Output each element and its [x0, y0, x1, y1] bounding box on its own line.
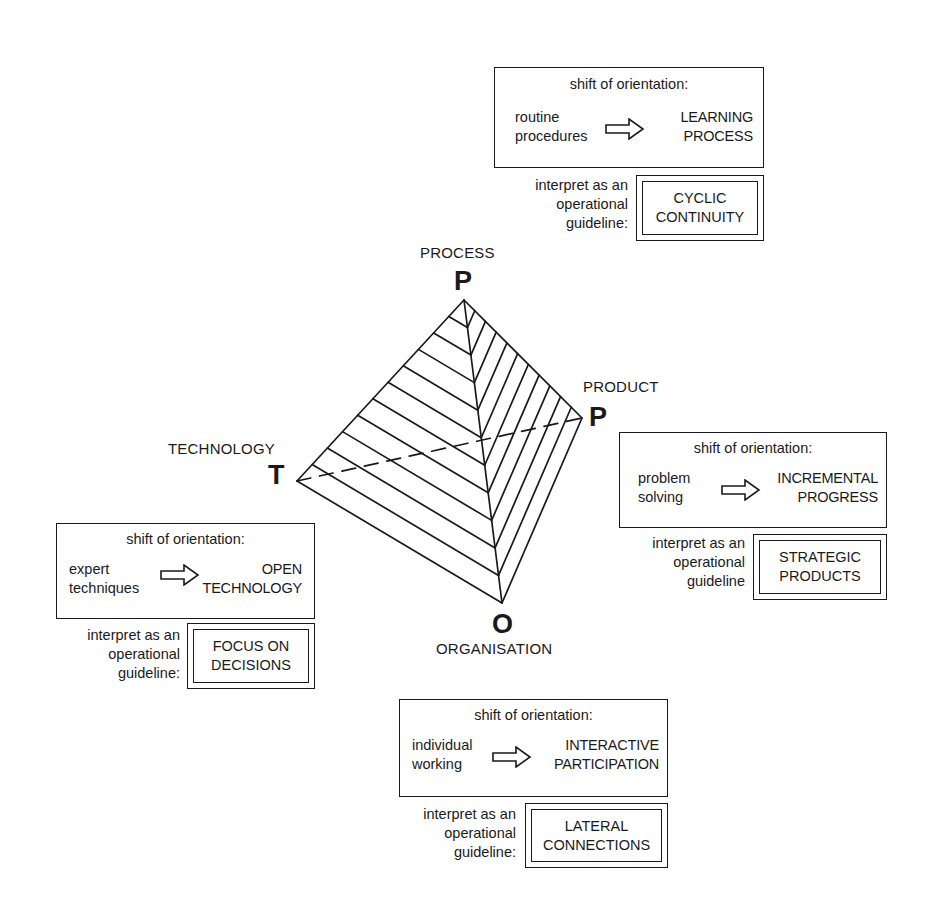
- guideline-box-inner: LATERAL CONNECTIONS: [531, 809, 662, 862]
- from-line-1: routine: [515, 108, 588, 127]
- caption-line-2: operational: [390, 824, 516, 843]
- guideline-caption-product: interpret as an operational guideline: [617, 534, 745, 591]
- shift-box-product: shift of orientation: problem solving IN…: [619, 432, 887, 528]
- guideline-box-technology: FOCUS ON DECISIONS: [187, 623, 315, 689]
- to-line-2: PARTICIPATION: [554, 755, 659, 774]
- vertex-label-process: PROCESS: [420, 244, 495, 261]
- shift-arrow-icon: [605, 118, 645, 140]
- caption-line-2: operational: [617, 553, 745, 572]
- to-line-1: OPEN: [202, 560, 302, 579]
- caption-line-3: guideline: [617, 572, 745, 591]
- shift-title: shift of orientation:: [400, 707, 667, 723]
- vertex-letter-product: P: [589, 402, 607, 433]
- guideline-caption-process: interpret as an operational guideline:: [500, 176, 628, 233]
- caption-line-1: interpret as an: [617, 534, 745, 553]
- shift-title: shift of orientation:: [57, 531, 314, 547]
- from-line-1: individual: [412, 736, 472, 755]
- shift-title: shift of orientation:: [495, 76, 763, 92]
- to-line-2: PROCESS: [680, 127, 753, 146]
- to-text: OPEN TECHNOLOGY: [202, 560, 302, 598]
- vertex-label-product: PRODUCT: [583, 378, 659, 395]
- to-line-1: INCREMENTAL: [777, 469, 878, 488]
- guideline-line-2: PRODUCTS: [779, 567, 860, 586]
- from-text: individual working: [412, 736, 472, 774]
- shift-box-organisation: shift of orientation: individual working…: [399, 699, 668, 797]
- guideline-line-1: CYCLIC: [673, 189, 726, 208]
- vertex-letter-process: P: [454, 266, 472, 297]
- caption-line-1: interpret as an: [52, 626, 180, 645]
- to-text: LEARNING PROCESS: [680, 108, 753, 146]
- from-line-2: working: [412, 755, 472, 774]
- guideline-line-2: CONNECTIONS: [543, 836, 650, 855]
- caption-line-3: guideline:: [500, 214, 628, 233]
- shift-title: shift of orientation:: [620, 440, 886, 456]
- from-text: problem solving: [638, 469, 690, 507]
- guideline-line-2: CONTINUITY: [656, 208, 745, 227]
- guideline-box-inner: STRATEGIC PRODUCTS: [759, 540, 881, 594]
- to-line-2: PROGRESS: [777, 488, 878, 507]
- from-line-2: solving: [638, 488, 690, 507]
- caption-line-3: guideline:: [390, 843, 516, 862]
- to-text: INTERACTIVE PARTICIPATION: [554, 736, 659, 774]
- vertex-label-organisation: ORGANISATION: [436, 640, 552, 657]
- guideline-caption-technology: interpret as an operational guideline:: [52, 626, 180, 683]
- caption-line-1: interpret as an: [500, 176, 628, 195]
- from-text: routine procedures: [515, 108, 588, 146]
- guideline-box-inner: CYCLIC CONTINUITY: [642, 181, 758, 235]
- caption-line-2: operational: [500, 195, 628, 214]
- guideline-box-process: CYCLIC CONTINUITY: [636, 175, 764, 241]
- shift-box-technology: shift of orientation: expert techniques …: [56, 523, 315, 619]
- to-line-1: LEARNING: [680, 108, 753, 127]
- caption-line-3: guideline:: [52, 664, 180, 683]
- guideline-box-inner: FOCUS ON DECISIONS: [193, 629, 309, 683]
- guideline-box-organisation: LATERAL CONNECTIONS: [525, 803, 668, 868]
- to-line-2: TECHNOLOGY: [202, 579, 302, 598]
- guideline-line-1: LATERAL: [565, 817, 628, 836]
- diagram-canvas: PROCESS P PRODUCT P TECHNOLOGY T O ORGAN…: [0, 0, 932, 915]
- guideline-line-1: STRATEGIC: [779, 548, 861, 567]
- from-line-1: problem: [638, 469, 690, 488]
- caption-line-1: interpret as an: [390, 805, 516, 824]
- guideline-line-2: DECISIONS: [211, 656, 291, 675]
- caption-line-2: operational: [52, 645, 180, 664]
- guideline-box-product: STRATEGIC PRODUCTS: [753, 534, 887, 600]
- shift-arrow-icon: [160, 564, 200, 586]
- guideline-caption-organisation: interpret as an operational guideline:: [390, 805, 516, 862]
- vertex-letter-technology: T: [268, 460, 285, 491]
- vertex-label-technology: TECHNOLOGY: [168, 440, 275, 457]
- from-line-2: techniques: [69, 579, 139, 598]
- shift-arrow-icon: [492, 746, 532, 768]
- vertex-letter-organisation: O: [492, 609, 513, 640]
- to-text: INCREMENTAL PROGRESS: [777, 469, 878, 507]
- to-line-1: INTERACTIVE: [554, 736, 659, 755]
- from-text: expert techniques: [69, 560, 139, 598]
- from-line-1: expert: [69, 560, 139, 579]
- from-line-2: procedures: [515, 127, 588, 146]
- shift-box-process: shift of orientation: routine procedures…: [494, 67, 764, 168]
- guideline-line-1: FOCUS ON: [213, 637, 290, 656]
- shift-arrow-icon: [721, 479, 761, 501]
